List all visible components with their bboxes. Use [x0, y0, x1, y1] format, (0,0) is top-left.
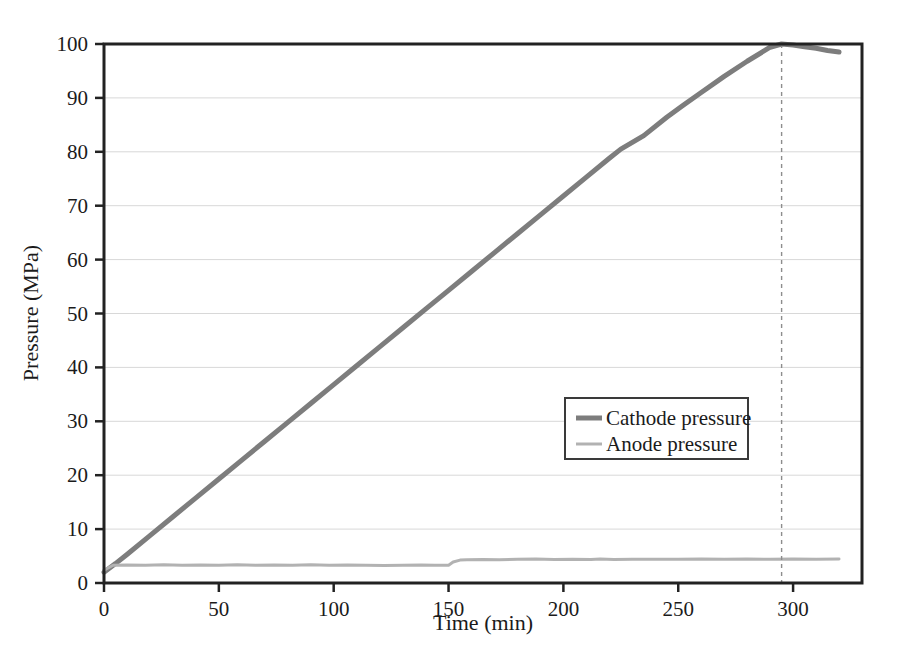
chart-figure: 050100150200250300 010203040506070809010…	[0, 0, 900, 663]
y-tick-label-80: 80	[67, 140, 88, 164]
y-tick-label-0: 0	[78, 571, 89, 595]
series-line-cathode-pressure	[104, 44, 839, 572]
y-tick-label-50: 50	[67, 302, 88, 326]
series-line-anode-pressure	[104, 559, 839, 570]
x-tick-label-200: 200	[548, 597, 580, 621]
y-tick-label-30: 30	[67, 409, 88, 433]
data-series-group	[104, 44, 839, 572]
x-axis-title: Time (min)	[433, 610, 533, 635]
legend-label-anode-pressure: Anode pressure	[606, 432, 737, 456]
x-tick-label-50: 50	[208, 597, 229, 621]
legend: Cathode pressure Anode pressure	[565, 398, 751, 459]
y-tick-label-90: 90	[67, 86, 88, 110]
y-tick-label-100: 100	[57, 32, 89, 56]
y-tick-label-20: 20	[67, 463, 88, 487]
legend-label-cathode-pressure: Cathode pressure	[606, 406, 751, 430]
y-tick-label-10: 10	[67, 517, 88, 541]
y-tick-label-70: 70	[67, 194, 88, 218]
y-axis-title: Pressure (MPa)	[18, 245, 43, 381]
x-tick-label-0: 0	[99, 597, 110, 621]
y-axis-ticks-group: 0102030405060708090100	[57, 32, 105, 595]
gridlines-group	[104, 98, 862, 529]
x-tick-label-300: 300	[777, 597, 809, 621]
chart-canvas: 050100150200250300 010203040506070809010…	[0, 0, 900, 663]
y-tick-label-40: 40	[67, 355, 88, 379]
x-tick-label-100: 100	[318, 597, 350, 621]
x-tick-label-250: 250	[662, 597, 694, 621]
y-tick-label-60: 60	[67, 248, 88, 272]
